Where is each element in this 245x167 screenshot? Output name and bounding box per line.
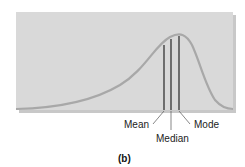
mean-label: Mean bbox=[124, 119, 149, 130]
chart-panel bbox=[16, 12, 233, 110]
mode-label: Mode bbox=[194, 119, 219, 130]
skewed-distribution-figure: Mean Median Mode (b) bbox=[0, 0, 245, 167]
figure-caption: (b) bbox=[118, 153, 131, 164]
median-label: Median bbox=[156, 133, 189, 144]
